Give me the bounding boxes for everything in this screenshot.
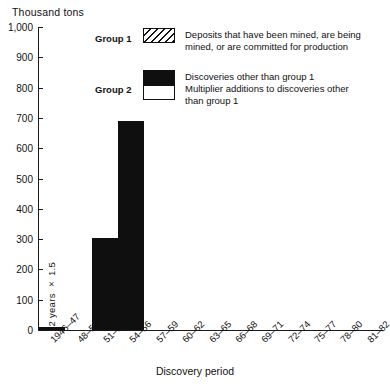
legend-desc-group-1-line-2: mined, or are committed for production	[185, 41, 361, 53]
legend-desc-group-1: Deposits that have been mined, are being…	[185, 28, 361, 53]
y-axis-label-800: 800	[0, 82, 33, 93]
legend-desc-group-2-line-1: Discoveries other than group 1	[185, 71, 349, 83]
y-axis-unit-title: Thousand tons	[12, 6, 84, 18]
legend-desc-group-1-line-1: Deposits that have been mined, are being	[185, 29, 361, 41]
y-axis-label-400: 400	[0, 203, 33, 214]
legend-label-group-1: Group 1	[95, 28, 143, 44]
y-axis-label-900: 900	[0, 52, 33, 63]
y-axis-label-300: 300	[0, 234, 33, 245]
legend-swatch-group-2	[143, 70, 177, 100]
y-axis-label-500: 500	[0, 173, 33, 184]
legend-entry-group-2: Group 2 Discoveries other than group 1 M…	[95, 70, 349, 108]
legend-desc-group-2: Discoveries other than group 1 Multiplie…	[185, 70, 349, 108]
y-axis-label-200: 200	[0, 264, 33, 275]
legend-desc-group-2-line-3: than group 1	[185, 95, 349, 107]
chart-root: Thousand tons 2 years × 1.5 010020030040…	[0, 0, 390, 388]
annotation-2years: 2 years × 1.5	[46, 262, 57, 327]
y-axis-label-700: 700	[0, 112, 33, 123]
y-axis-label-600: 600	[0, 143, 33, 154]
legend-label-group-2: Group 2	[95, 70, 143, 95]
white-swatch-icon	[143, 85, 175, 100]
bar-54–56	[118, 121, 144, 330]
y-axis-label-100: 100	[0, 294, 33, 305]
legend-desc-group-2-line-2: Multiplier additions to discoveries othe…	[185, 83, 349, 95]
hatch-swatch-icon	[143, 28, 175, 43]
y-axis-label-0: 0	[0, 325, 33, 336]
solid-black-swatch-icon	[143, 70, 175, 85]
y-tick-0	[38, 330, 43, 331]
x-axis-title: Discovery period	[0, 365, 390, 377]
bar-51–53	[92, 238, 118, 330]
legend-entry-group-1: Group 1 Deposits that have been mined, a…	[95, 28, 361, 53]
legend-swatch-group-1	[143, 28, 177, 43]
y-axis-label-1000: 1,000	[0, 22, 33, 33]
